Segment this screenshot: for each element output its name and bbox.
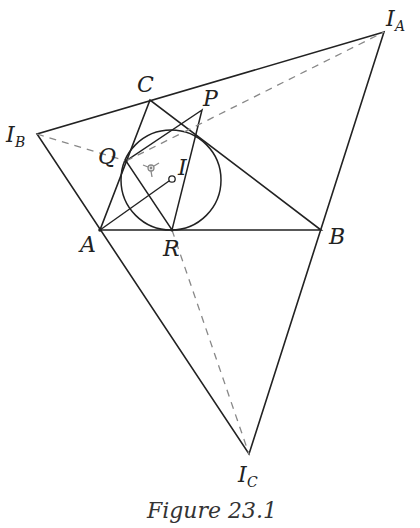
label-q: Q	[98, 144, 116, 169]
concurrency-point-marker	[143, 163, 159, 177]
vertex-r-dot	[170, 228, 173, 231]
incenter-point	[169, 176, 175, 182]
vertex-q-dot	[124, 159, 127, 162]
dashed-r-ic	[172, 230, 249, 454]
vertex-a-dot	[98, 228, 102, 232]
segment-a-i	[100, 181, 169, 230]
geometry-diagram: A B C P Q R I I A I B I C Figure 23.1	[0, 0, 420, 528]
label-i: I	[177, 155, 188, 180]
svg-text:C: C	[247, 474, 258, 490]
contact-triangle-pqr	[126, 110, 202, 230]
label-c: C	[137, 72, 154, 97]
label-b: B	[328, 224, 345, 249]
label-ia: I A	[385, 6, 405, 34]
label-ic: I C	[237, 462, 258, 490]
label-p: P	[202, 86, 219, 111]
svg-text:A: A	[393, 18, 405, 34]
label-r: R	[162, 236, 180, 261]
label-ib: I B	[5, 122, 25, 150]
svg-text:B: B	[14, 134, 25, 150]
figure-caption: Figure 23.1	[146, 498, 277, 523]
label-a: A	[78, 232, 96, 257]
